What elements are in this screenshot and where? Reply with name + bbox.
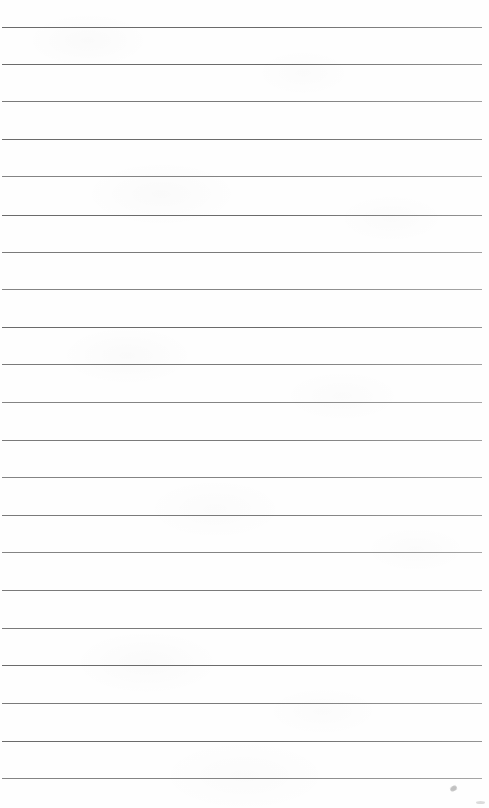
paper-texture (0, 0, 489, 808)
ruled-line-17 (2, 628, 482, 629)
ruled-line-16 (2, 590, 482, 591)
ruled-line-8 (2, 289, 482, 290)
ruled-line-2 (2, 64, 482, 65)
ruled-line-4 (2, 139, 482, 140)
ruled-line-5 (2, 176, 482, 177)
ruled-line-9 (2, 327, 482, 328)
ruled-line-1 (2, 27, 482, 28)
ruled-line-20 (2, 741, 482, 742)
ruled-line-6 (2, 215, 482, 216)
ruled-line-18 (2, 665, 482, 666)
ruled-line-14 (2, 515, 482, 516)
scan-speck-mark (476, 801, 485, 804)
ruled-line-7 (2, 252, 482, 253)
scanned-page (0, 0, 489, 808)
ruled-line-13 (2, 477, 482, 478)
pencil-smudge-mark (449, 785, 458, 793)
ruled-line-3 (2, 101, 482, 102)
ruled-line-21 (2, 778, 482, 779)
ruled-line-10 (2, 364, 482, 365)
ruled-line-19 (2, 703, 482, 704)
ruled-line-15 (2, 552, 482, 553)
ruled-line-12 (2, 440, 482, 441)
ruled-line-11 (2, 402, 482, 403)
